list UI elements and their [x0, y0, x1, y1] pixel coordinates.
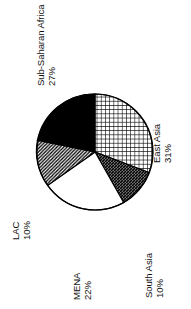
label-south-asia: South Asia 10% — [143, 252, 165, 298]
pie-chart-figure: Sub-Saharan Africa 27% East Asia 31% Sou… — [0, 0, 191, 309]
label-sub-saharan-africa: Sub-Saharan Africa 27% — [35, 4, 57, 86]
label-text-east-asia: East Asia — [151, 123, 162, 163]
label-mena: MENA 22% — [71, 272, 93, 300]
label-pct-east-asia: 31% — [162, 144, 173, 163]
label-pct-south-asia: 10% — [154, 279, 165, 298]
label-pct-lac: 10% — [21, 221, 32, 240]
label-text-south-asia: South Asia — [143, 252, 154, 298]
label-text-sub-saharan-africa: Sub-Saharan Africa — [35, 4, 46, 86]
label-pct-sub-saharan-africa: 27% — [46, 67, 57, 86]
label-text-mena: MENA — [71, 272, 82, 300]
pie-chart-canvas: Sub-Saharan Africa 27% East Asia 31% Sou… — [0, 0, 191, 309]
label-text-lac: LAC — [10, 221, 21, 240]
label-east-asia: East Asia 31% — [151, 123, 173, 163]
label-lac: LAC 10% — [10, 221, 32, 240]
label-pct-mena: 22% — [82, 281, 93, 300]
